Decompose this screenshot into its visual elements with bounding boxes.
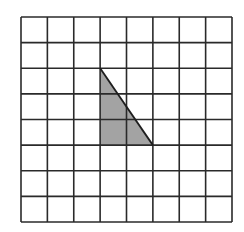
grid-diagram (0, 0, 244, 232)
